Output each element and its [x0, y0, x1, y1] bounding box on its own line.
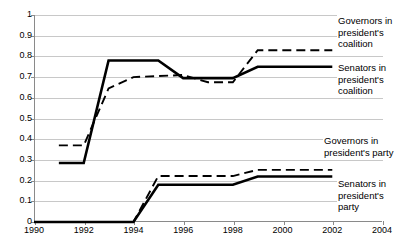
y-axis-label: 0.1: [2, 196, 32, 205]
annotation-governors-party: Governors in president's party: [323, 135, 417, 158]
chart-container: Governors in president's coalition Senat…: [0, 0, 417, 246]
y-axis-label: 0.6: [2, 93, 32, 102]
x-axis-label: 1998: [213, 226, 253, 235]
y-axis-label: 0.3: [2, 155, 32, 164]
y-axis-label: 1: [2, 10, 32, 19]
y-axis-label: 0.9: [2, 31, 32, 40]
series-line-senators-coalition: [59, 61, 332, 163]
x-axis-label: 1994: [113, 226, 153, 235]
annotation-senators-party: Senators in president's party: [337, 178, 417, 213]
y-axis-label: 0.5: [2, 114, 32, 123]
annotation-governors-coalition: Governors in president's coalition: [337, 15, 417, 50]
x-axis-label: 2004: [362, 226, 402, 235]
x-axis-label: 1990: [14, 226, 54, 235]
series-line-senators-party: [34, 176, 332, 222]
y-axis-label: 0.4: [2, 134, 32, 143]
y-axis-label: 0.7: [2, 72, 32, 81]
y-axis-label: 0.2: [2, 176, 32, 185]
series-layer: [34, 15, 382, 222]
x-axis-label: 1992: [64, 226, 104, 235]
x-axis-label: 2002: [312, 226, 352, 235]
x-axis-label: 1996: [163, 226, 203, 235]
y-axis-label: 0.8: [2, 51, 32, 60]
annotation-senators-coalition: Senators in president's coalition: [337, 62, 417, 97]
x-axis-label: 2000: [263, 226, 303, 235]
